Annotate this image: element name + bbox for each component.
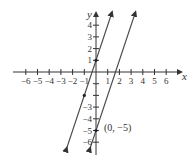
y-tick-label: 3: [88, 32, 93, 42]
x-tick-label: 6: [164, 76, 169, 86]
x-tick-label: −2: [68, 76, 78, 86]
x-tick-label: −5: [33, 76, 43, 86]
x-axis-label: x: [181, 70, 187, 82]
y-tick-label: 4: [88, 20, 93, 30]
y-axis-label: y: [86, 8, 92, 20]
x-tick-label: 2: [117, 76, 122, 86]
x-tick-label: 4: [141, 76, 146, 86]
x-tick-label: 3: [129, 76, 134, 86]
y-tick-label: 1: [88, 55, 93, 65]
x-tick-label: 5: [152, 76, 157, 86]
x-tick-label: −3: [56, 76, 66, 86]
y-tick-label: −3: [82, 102, 92, 112]
x-tick-label: −4: [44, 76, 54, 86]
data-point: [83, 94, 86, 97]
y-tick-label: −4: [82, 114, 92, 124]
data-point: [94, 129, 97, 132]
y-tick-label: −5: [82, 126, 92, 136]
point-label: (0, −5): [104, 122, 131, 134]
data-point: [94, 59, 97, 62]
y-tick-label: 2: [88, 44, 93, 54]
coordinate-graph: −6−5−4−3−2−1123456 1234−3−4−5−6 x y (0, …: [0, 0, 196, 166]
x-tick-label: −6: [21, 76, 31, 86]
x-tick-label: 1: [105, 76, 110, 86]
